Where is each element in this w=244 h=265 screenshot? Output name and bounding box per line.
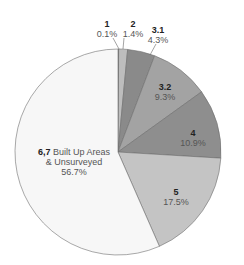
slice-percent: 4.3% [148,35,169,45]
slice-category: 4 [180,128,206,138]
slice-category: 1 [97,19,118,29]
slice-label-1: 1 0.1% [97,19,118,39]
slice-percent: 1.4% [123,29,144,39]
slice-category: 3.2 [155,82,176,92]
slice-category: 3.1 [148,25,169,35]
leader-line-2 [123,38,124,49]
slice-label-2: 2 1.4% [123,19,144,39]
slice-label-3-1: 3.1 4.3% [148,25,169,45]
slice-category: 2 [123,19,144,29]
leader-line-3-1 [150,44,156,55]
slice-label-5: 5 17.5% [163,187,189,207]
slice-label-6-7: 6,7 Built Up Areas & Unsurveyed 56.7% [38,147,110,177]
slice-percent: 10.9% [180,138,206,148]
slice-percent: 9.3% [155,92,176,102]
slice-percent: 0.1% [97,29,118,39]
slice-label-4: 4 10.9% [180,128,206,148]
slice-category: 5 [163,187,189,197]
slice-category-extra: Built Up Areas [50,147,110,157]
slice-category-line2: & Unsurveyed [38,157,110,167]
slice-percent: 17.5% [163,197,189,207]
pie-chart [0,0,244,265]
slice-category: 6,7 [38,147,51,157]
slice-percent: 56.7% [38,167,110,177]
slice-label-3-2: 3.2 9.3% [155,82,176,102]
leader-line-1 [113,38,119,49]
